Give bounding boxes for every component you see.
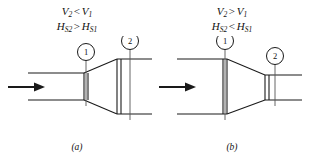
panel-a-drawing: 1 2 <box>0 36 154 144</box>
panel-a-flow-arrow <box>8 83 45 92</box>
eq-a1-lhs: V <box>62 5 69 17</box>
eq-b1-rhs-sub: 1 <box>243 10 247 19</box>
eq-a1-relation: < <box>72 5 81 17</box>
eq-b1-relation: > <box>227 5 236 17</box>
panel-a-equation-velocity: V2<V1 <box>0 4 154 19</box>
panel-b-drawing: 1 2 <box>155 36 309 144</box>
panel-a-caption: (a) <box>0 142 154 152</box>
panel-b-converging-lower <box>227 100 265 114</box>
panel-a-station2-label: 2 <box>128 36 132 46</box>
panel-b-station2-label: 2 <box>273 51 277 61</box>
panel-b-station1-label: 1 <box>223 36 227 46</box>
panel-a-diverging-lower <box>84 100 117 114</box>
panel-a-equations: V2<V1 HS2>HS1 <box>0 4 154 34</box>
eq-a2-lhs: H <box>57 20 65 32</box>
panel-b: V2>V1 HS2<HS1 <box>155 0 309 157</box>
eq-a2-rhs: H <box>82 20 90 32</box>
eq-b2-rhs-sub: S1 <box>245 25 253 34</box>
panel-a-station1-label: 1 <box>84 47 88 57</box>
eq-a1-rhs-sub: 1 <box>88 10 92 19</box>
panel-a-diverging-upper <box>84 59 117 73</box>
eq-b2-rhs: H <box>237 20 245 32</box>
panel-b-flow-arrow <box>159 83 196 92</box>
eq-b2-lhs: H <box>212 20 220 32</box>
panel-a: V2<V1 HS2>HS1 <box>0 0 154 157</box>
figure-diffuser-nozzle: V2<V1 HS2>HS1 <box>0 0 309 157</box>
eq-b2-relation: < <box>227 20 236 32</box>
eq-b1-lhs: V <box>217 5 224 17</box>
panel-b-equation-velocity: V2>V1 <box>155 4 309 19</box>
panel-b-equation-head: HS2<HS1 <box>155 19 309 34</box>
panel-b-caption: (b) <box>155 142 309 152</box>
eq-a2-relation: > <box>72 20 81 32</box>
eq-a2-rhs-sub: S1 <box>90 25 98 34</box>
panel-b-converging-upper <box>227 59 265 75</box>
panel-b-equations: V2>V1 HS2<HS1 <box>155 4 309 34</box>
panel-a-equation-head: HS2>HS1 <box>0 19 154 34</box>
